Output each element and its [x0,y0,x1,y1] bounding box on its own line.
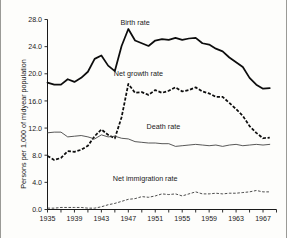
y-tick-label: 16.0 [28,98,42,106]
x-tick-label: 1935 [40,215,56,223]
series-line-birth-rate [48,29,270,89]
series-line-net-immigration-rate [48,191,270,209]
series-label-net-immigration-rate: Net immigration rate [113,174,178,183]
series-label-birth-rate: Birth rate [120,18,149,27]
y-axis-title: Persons per 1,000 of midyear population [19,59,28,188]
x-tick-label: 1943 [93,215,109,223]
y-tick-label: 24.0 [28,43,42,51]
x-tick-label: 1959 [201,215,217,223]
x-tick-label: 1951 [147,215,163,223]
vital-rates-line-chart: 0.04.08.012.016.020.024.028.0 1935193919… [0,0,287,238]
x-tick-label: 1967 [255,215,271,223]
x-tick-labels: 193519391943194719511955195919631967 [40,215,271,223]
x-tick-label: 1947 [120,215,136,223]
y-tick-label: 4.0 [32,179,42,187]
chart-axes [45,20,277,213]
y-tick-label: 28.0 [28,16,42,24]
series-label-death-rate: Death rate [147,122,181,131]
x-tick-label: 1963 [228,215,244,223]
series-label-net-growth-rate: Net growth rate [114,69,163,78]
series-line-death-rate [48,132,270,146]
y-axis-title-text: Persons per 1,000 of midyear population [19,59,28,188]
chart-canvas: 0.04.08.012.016.020.024.028.0 1935193919… [0,0,287,238]
y-tick-label: 8.0 [32,152,42,160]
y-tick-label: 0.0 [32,206,42,214]
y-tick-label: 12.0 [28,125,42,133]
x-tick-label: 1955 [174,215,190,223]
x-tick-label: 1939 [67,215,83,223]
y-tick-labels: 0.04.08.012.016.020.024.028.0 [28,16,42,214]
y-tick-label: 20.0 [28,70,42,78]
